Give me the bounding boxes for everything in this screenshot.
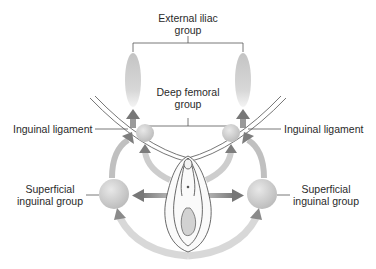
label-superficial-right-line2: inguinal group: [290, 195, 362, 207]
label-superficial-right-line1: Superficial: [290, 183, 362, 195]
lymphatic-drainage-diagram: External iliac group Deep femoral group …: [0, 0, 376, 269]
deep-femoral-node-left: [136, 124, 154, 142]
external-iliac-node-right: [235, 53, 251, 107]
arrow-superficial-to-deep-left: [112, 132, 134, 178]
label-deep-femoral-line2: group: [148, 98, 228, 110]
deep-femoral-node-right: [222, 124, 240, 142]
label-inguinal-ligament-left: Inguinal ligament: [13, 123, 92, 135]
label-external-iliac-line2: group: [148, 24, 228, 36]
label-external-iliac-group: External iliac group: [148, 12, 228, 36]
label-superficial-inguinal-right: Superficial inguinal group: [290, 183, 362, 207]
arrow-to-external-iliac-left: [126, 109, 140, 128]
label-superficial-left-line1: Superficial: [14, 183, 86, 195]
deep-femoral-bracket: [145, 118, 231, 133]
vulva-illustration: [165, 156, 211, 252]
arrow-to-external-iliac-right: [236, 109, 250, 128]
label-deep-femoral-line1: Deep femoral: [148, 86, 228, 98]
label-external-iliac-line1: External iliac: [148, 12, 228, 24]
label-superficial-left-line2: inguinal group: [14, 195, 86, 207]
superficial-inguinal-node-right: [247, 179, 277, 209]
superficial-inguinal-node-left: [99, 179, 129, 209]
external-iliac-bracket: [133, 36, 243, 52]
arrow-superficial-to-deep-right: [242, 132, 264, 178]
label-superficial-inguinal-left: Superficial inguinal group: [14, 183, 86, 207]
external-iliac-node-left: [125, 53, 141, 107]
label-deep-femoral-group: Deep femoral group: [148, 86, 228, 110]
label-inguinal-ligament-right: Inguinal ligament: [284, 123, 363, 135]
